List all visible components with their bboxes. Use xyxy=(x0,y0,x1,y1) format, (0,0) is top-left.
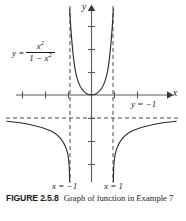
curve-right-branch xyxy=(113,121,176,182)
figure-container: y = x2 1 − x2 x y x = −1 x = 1 y = −1 FI… xyxy=(0,0,186,221)
vertical-asymptote-right-label: x = 1 xyxy=(104,182,123,191)
equation-numerator: x2 xyxy=(34,42,47,52)
y-axis-label: y xyxy=(82,3,86,13)
horizontal-asymptote-label: y = −1 xyxy=(131,100,156,109)
figure-caption-text: Graph of function in Example 7 xyxy=(64,193,174,203)
equation-lhs: y = xyxy=(12,48,24,58)
denominator-exponent: 2 xyxy=(48,51,51,58)
function-equation-label: y = x2 1 − x2 xyxy=(12,42,55,63)
vertical-asymptote-left-label: x = −1 xyxy=(52,182,77,191)
equation-fraction: x2 1 − x2 xyxy=(26,42,54,63)
equation-denominator: 1 − x2 xyxy=(26,53,54,63)
graph-plot xyxy=(0,0,186,190)
figure-caption-number: FIGURE 2.5.8 xyxy=(6,193,59,203)
y-axis-arrow-icon xyxy=(88,5,96,12)
x-axis-label: x xyxy=(173,89,177,99)
curve-left-branch xyxy=(7,121,70,182)
figure-caption: FIGURE 2.5.8Graph of function in Example… xyxy=(6,193,184,205)
numerator-exponent: 2 xyxy=(41,39,44,46)
